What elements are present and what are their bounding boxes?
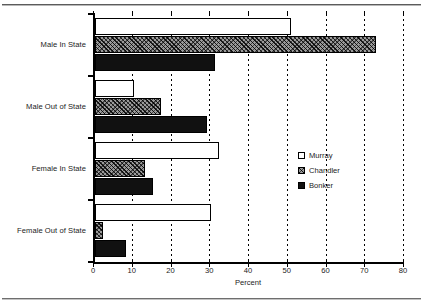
bar-bonker-1 <box>95 116 207 133</box>
bar-murray-3 <box>95 204 211 221</box>
bonker-swatch-icon <box>298 182 305 189</box>
bar-chandler-1 <box>95 98 161 115</box>
x-tick-top-30 <box>209 11 210 15</box>
x-tick-label-70: 70 <box>351 266 377 275</box>
gridline-80 <box>403 14 404 262</box>
x-tick-top-80 <box>403 11 404 15</box>
clipped-top-caption <box>0 0 423 2</box>
y-tick-2 <box>88 137 95 139</box>
bar-chart: Male In StateMale Out of StateFemale In … <box>0 8 423 292</box>
category-label-1: Male Out of State <box>0 102 86 111</box>
bar-chandler-3 <box>95 222 103 239</box>
x-tick-label-0: 0 <box>80 266 106 275</box>
legend-item-chandler: Chandler <box>298 163 368 178</box>
x-tick-top-50 <box>287 11 288 15</box>
x-tick-label-40: 40 <box>235 266 261 275</box>
x-tick-top-40 <box>248 11 249 15</box>
legend-item-bonker: Bonker <box>298 178 368 193</box>
x-tick-top-70 <box>364 11 365 15</box>
bar-murray-0 <box>95 18 291 35</box>
x-tick-label-30: 30 <box>196 266 222 275</box>
y-tick-0 <box>88 13 95 15</box>
x-tick-label-20: 20 <box>158 266 184 275</box>
page-bottom-rule <box>2 298 421 299</box>
bar-chandler-2 <box>95 160 145 177</box>
y-tick-1 <box>88 75 95 77</box>
y-tick-end <box>88 261 95 263</box>
x-tick-label-50: 50 <box>274 266 300 275</box>
chart-legend: Murray Chandler Bonker <box>298 148 368 193</box>
x-axis-title: Percent <box>93 278 403 287</box>
legend-item-murray: Murray <box>298 148 368 163</box>
x-tick-label-10: 10 <box>119 266 145 275</box>
x-tick-top-20 <box>171 11 172 15</box>
legend-label-murray: Murray <box>309 151 333 160</box>
chandler-swatch-icon <box>298 167 305 174</box>
bar-murray-2 <box>95 142 219 159</box>
x-tick-top-60 <box>326 11 327 15</box>
bar-bonker-3 <box>95 240 126 257</box>
page-canvas: Male In StateMale Out of StateFemale In … <box>0 0 423 307</box>
x-tick-label-60: 60 <box>313 266 339 275</box>
bar-bonker-2 <box>95 178 153 195</box>
bar-bonker-0 <box>95 54 215 71</box>
y-tick-3 <box>88 199 95 201</box>
page-top-rule <box>2 4 421 5</box>
bar-chandler-0 <box>95 36 376 53</box>
bar-murray-1 <box>95 80 134 97</box>
x-tick-top-10 <box>132 11 133 15</box>
category-label-0: Male In State <box>0 40 86 49</box>
x-tick-label-80: 80 <box>390 266 416 275</box>
legend-label-bonker: Bonker <box>309 181 333 190</box>
category-label-2: Female In State <box>0 164 86 173</box>
murray-swatch-icon <box>298 152 305 159</box>
category-label-3: Female Out of State <box>0 226 86 235</box>
legend-label-chandler: Chandler <box>309 166 340 175</box>
